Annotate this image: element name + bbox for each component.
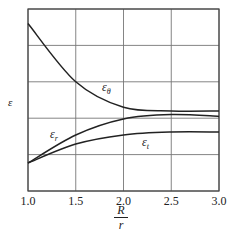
eps-theta-sub: θ bbox=[107, 87, 111, 96]
x-axis-label: R r bbox=[114, 204, 128, 231]
x-axis-label-denominator: r bbox=[114, 219, 128, 231]
grid bbox=[28, 9, 219, 191]
series-label-eps-theta: εθ bbox=[102, 80, 111, 96]
y-axis-label: ε bbox=[8, 96, 12, 108]
x-tick-label: 1.0 bbox=[19, 194, 37, 209]
x-tick-label: 3.0 bbox=[210, 194, 228, 209]
x-tick-label: 1.5 bbox=[67, 194, 85, 209]
x-tick-label: 2.5 bbox=[162, 194, 180, 209]
eps-t-sub: t bbox=[147, 142, 149, 151]
x-axis-label-numerator: R bbox=[114, 204, 128, 216]
eps-r-sub: r bbox=[55, 134, 58, 143]
series-label-eps-r: εr bbox=[50, 127, 58, 143]
series-label-eps-t: εt bbox=[142, 135, 149, 151]
